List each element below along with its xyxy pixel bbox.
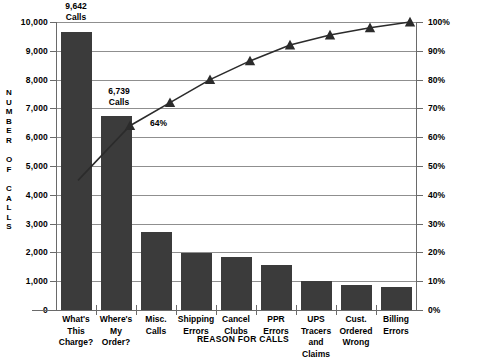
y-axis-right-tick-mark (417, 51, 423, 52)
x-axis-title: REASON FOR CALLS (0, 334, 486, 344)
y-axis-left-tick-label: 9,000 (0, 47, 48, 56)
bar (261, 265, 292, 310)
bar (381, 287, 412, 310)
bar-1-value-label: 9,642 Calls (46, 1, 106, 23)
bar (221, 257, 252, 310)
x-axis-category-line: Cust. (336, 314, 376, 326)
y-axis-right-tick-mark (417, 224, 423, 225)
y-axis-right-tick-mark (417, 80, 423, 81)
y-axis-right-tick-mark (417, 252, 423, 253)
y-axis-right-tick-mark (417, 195, 423, 196)
y-axis-right-tick-mark (417, 166, 423, 167)
y-axis-title-char: L (2, 203, 16, 213)
cumulative-64-percent-label: 64% (150, 118, 167, 128)
bar (141, 232, 172, 310)
bar-2-value-text: 6,739 (89, 86, 149, 97)
y-axis-left-tick-label: 6,000 (0, 133, 48, 142)
y-axis-right-tick-mark (417, 310, 423, 311)
x-axis-category-line: Cancel (216, 314, 256, 326)
y-axis-right-tick-mark (417, 108, 423, 109)
x-axis-category-line: UPS (296, 314, 336, 326)
y-axis-right-tick-label: 40% (428, 191, 468, 200)
y-axis-left-tick-label: 2,000 (0, 248, 48, 257)
y-axis-left-tick-label: 3,000 (0, 220, 48, 229)
y-axis-right-tick-label: 100% (428, 18, 468, 27)
y-axis-left-tick-label: 4,000 (0, 191, 48, 200)
bar-1-value-unit: Calls (46, 12, 106, 23)
y-axis-right-line (416, 22, 417, 311)
bar (101, 116, 132, 310)
bar-2-value-unit: Calls (89, 97, 149, 108)
y-axis-left-tick-label: 5,000 (0, 162, 48, 171)
x-axis-category-line: Billing (376, 314, 416, 326)
y-axis-title-char: N (2, 88, 16, 98)
y-axis-right-tick-label: 90% (428, 47, 468, 56)
x-axis-category-line: Misc. (136, 314, 176, 326)
y-axis-title-char (2, 146, 16, 156)
x-axis-category-line: Shipping (176, 314, 216, 326)
y-axis-right-tick-mark (417, 281, 423, 282)
y-axis-right-tick-label: 60% (428, 133, 468, 142)
bar (341, 285, 372, 310)
y-axis-right-tick-label: 10% (428, 277, 468, 286)
bar-1-value-text: 9,642 (46, 1, 106, 12)
bars-layer (56, 22, 416, 310)
y-axis-right-tick-label: 30% (428, 220, 468, 229)
y-axis-right-tick-mark (417, 22, 423, 23)
bar (181, 253, 212, 310)
x-axis-line (32, 310, 417, 311)
y-axis-right-tick-label: 20% (428, 248, 468, 257)
x-axis-category-line: Where's (96, 314, 136, 326)
y-axis-left-tick-label: 7,000 (0, 104, 48, 113)
y-axis-left-tick-label: 10,000 (0, 18, 48, 27)
y-axis-right-tick-mark (417, 137, 423, 138)
bar (301, 281, 332, 310)
y-axis-left-tick-label: 1,000 (0, 277, 48, 286)
y-axis-right-tick-label: 50% (428, 162, 468, 171)
y-axis-right-tick-label: 0% (428, 306, 468, 315)
x-axis-category-line: PPR (256, 314, 296, 326)
bar (61, 32, 92, 310)
y-axis-title-char (2, 174, 16, 184)
x-axis-category-line: What's (56, 314, 96, 326)
y-axis-right-tick-label: 80% (428, 76, 468, 85)
y-axis-right-tick-label: 70% (428, 104, 468, 113)
y-axis-title-char: B (2, 117, 16, 127)
bar-2-value-label: 6,739 Calls (89, 86, 149, 108)
y-axis-left-tick-label: 8,000 (0, 76, 48, 85)
